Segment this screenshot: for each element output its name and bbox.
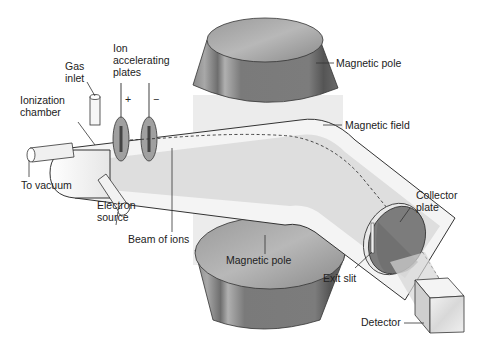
label-magnetic-field: Magnetic field — [345, 119, 410, 131]
label-collector-plate: Collector plate — [416, 189, 460, 213]
label-gas-inlet: Gas inlet — [65, 60, 87, 84]
label-to-vacuum: To vacuum — [21, 179, 72, 191]
leader-gas-inlet — [87, 82, 95, 96]
label-ion-accelerating-plates: Ion accelerating plates — [113, 42, 173, 78]
detector-cube — [415, 278, 464, 333]
label-magnetic-pole-bottom: Magnetic pole — [226, 254, 292, 266]
magnetic-pole-top — [193, 18, 338, 102]
label-beam-of-ions: Beam of ions — [128, 233, 189, 245]
label-exit-slit: Exit slit — [323, 272, 356, 284]
mass-spectrometer-diagram: Gas inlet Ion accelerating plates + − Io… — [0, 0, 484, 351]
label-electron-source: Electron source — [97, 199, 138, 223]
gas-inlet-pipe — [90, 95, 100, 126]
exit-slit — [371, 223, 374, 253]
leader-ionization-chamber — [78, 122, 95, 145]
label-plus-sign: + — [125, 93, 131, 105]
label-detector: Detector — [361, 316, 401, 328]
label-ionization-chamber: Ionization chamber — [20, 94, 68, 118]
label-minus-sign: − — [153, 93, 159, 105]
label-magnetic-pole-top: Magnetic pole — [336, 57, 402, 69]
